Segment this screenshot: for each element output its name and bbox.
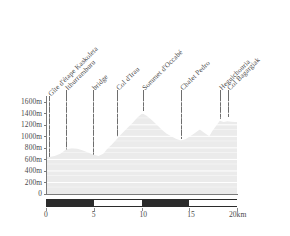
y-axis-line: [46, 96, 47, 195]
y-tick-label: 600m: [2, 156, 42, 163]
scale-bar-segment: [46, 200, 94, 206]
y-tick-label: 400m: [2, 167, 42, 174]
y-tick-mark: [44, 182, 46, 183]
y-tick-mark: [44, 171, 46, 172]
elevation-profile-chart: Gîte d'étape KaskoletaIthurramburubridge…: [0, 0, 290, 236]
x-tick-label: 15: [187, 211, 195, 219]
y-tick-mark: [44, 148, 46, 149]
y-tick-label: 0: [2, 190, 42, 197]
scale-bar-segment: [94, 200, 142, 206]
y-tick-label: 1600m: [2, 98, 42, 105]
scale-bar-segment: [189, 200, 237, 206]
y-tick-mark: [44, 159, 46, 160]
x-tick-label: 5: [92, 211, 96, 219]
elevation-area: [46, 113, 237, 194]
y-tick-mark: [44, 102, 46, 103]
scale-bar-segment: [142, 200, 190, 206]
y-tick-mark: [44, 113, 46, 114]
y-tick-mark: [44, 125, 46, 126]
y-tick-label: 1400m: [2, 110, 42, 117]
x-tick-label: 0: [44, 211, 48, 219]
y-tick-mark: [44, 136, 46, 137]
x-tick-label: 20km: [229, 211, 246, 219]
y-tick-label: 1200m: [2, 121, 42, 128]
x-tick-label: 10: [140, 211, 148, 219]
scale-bar: [46, 199, 237, 207]
y-tick-label: 1000m: [2, 133, 42, 140]
y-tick-label: 200m: [2, 179, 42, 186]
y-tick-label: 800m: [2, 144, 42, 151]
x-axis-line: [46, 194, 238, 195]
